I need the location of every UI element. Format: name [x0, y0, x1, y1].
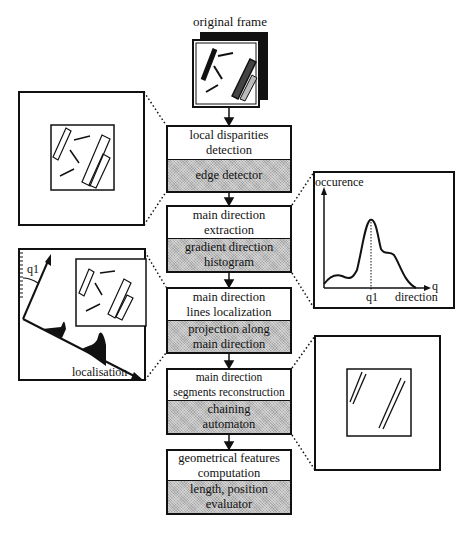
histogram-y-label: occurence: [315, 175, 385, 190]
method-length-position-evaluator: length, position evaluator: [166, 481, 292, 515]
stage-main-direction-extraction: main direction extraction: [166, 205, 292, 240]
method5-line2: evaluator: [206, 497, 253, 512]
stage-local-disparities-detection: local disparities detection: [166, 125, 292, 161]
histogram-x-label: direction: [395, 290, 451, 305]
method-chaining-automaton: chaining automaton: [166, 401, 292, 435]
stage-main-direction-lines-localization: main direction lines localization: [166, 287, 292, 322]
method4-line1: chaining: [207, 402, 250, 417]
method2-line1: gradient direction: [185, 240, 274, 255]
method3-line1: projection along: [188, 322, 270, 337]
stage1-line2: detection: [206, 143, 252, 158]
original-frame-icon: [193, 32, 268, 107]
method-edge-detector: edge detector: [166, 160, 292, 193]
stage3-line1: main direction: [193, 290, 266, 305]
method-gradient-direction-histogram: gradient direction histogram: [166, 239, 292, 273]
stage-geometrical-features-computation: geometrical features computation: [166, 449, 292, 482]
segments-panel: [315, 336, 440, 470]
stage3-line2: lines localization: [186, 305, 271, 320]
original-frame-label: original frame: [185, 14, 275, 29]
stage1-line1: local disparities: [190, 128, 269, 143]
method-projection-along-main-direction: projection along main direction: [166, 321, 292, 354]
method5-line1: length, position: [190, 482, 268, 497]
method4-line2: automaton: [203, 417, 256, 432]
projection-axis-label: localisation: [72, 365, 134, 380]
edge-detection-panel: [19, 92, 144, 225]
stage2-line1: main direction: [193, 208, 266, 223]
stage2-line2: extraction: [204, 223, 254, 238]
histogram-peak-label: q1: [362, 290, 382, 305]
stage5-line2: computation: [198, 466, 261, 481]
method2-line2: histogram: [204, 255, 254, 270]
projection-angle-label: q1: [27, 262, 43, 277]
stage5-line1: geometrical features: [178, 451, 280, 466]
stage4-line2: segments reconstruction: [173, 385, 284, 400]
method1-line1: edge detector: [196, 168, 263, 183]
method3-line2: main direction: [193, 337, 266, 352]
stage4-line1: main direction: [196, 370, 263, 385]
stage-main-direction-segments-reconstruction: main direction segments reconstruction: [166, 368, 292, 402]
